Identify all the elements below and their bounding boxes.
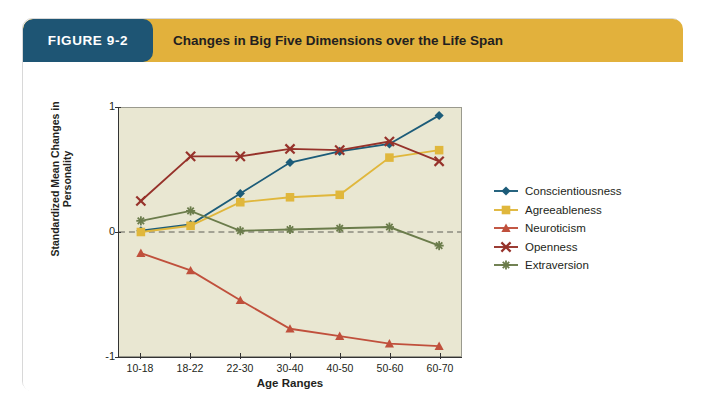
series-neuroticism (136, 249, 443, 350)
x-tick-mark (290, 353, 291, 359)
figure-number-tab: FIGURE 9-2 (23, 19, 153, 62)
data-point-marker-x (435, 157, 444, 166)
data-point-marker-diamond (435, 111, 444, 120)
data-point-marker-asterisk (236, 226, 245, 235)
legend-swatch-x-icon (493, 240, 519, 254)
chart-region: Standardized Mean Changes in Personality… (23, 62, 683, 392)
x-tick-label: 22-30 (214, 362, 266, 374)
x-tick-label: 30-40 (264, 362, 316, 374)
x-tick-mark (340, 353, 341, 359)
legend-item-neuroticism[interactable]: Neuroticism (493, 219, 673, 238)
data-point-marker-triangle (136, 249, 145, 257)
legend-label: Agreeableness (525, 204, 602, 216)
legend-item-conscientiousness[interactable]: Conscientiousness (493, 182, 673, 201)
series-conscientiousness (136, 111, 443, 235)
figure-number-label: FIGURE 9-2 (48, 33, 128, 48)
x-tick-mark (440, 353, 441, 359)
legend-item-agreeableness[interactable]: Agreeableness (493, 201, 673, 220)
y-tick-label: 1 (97, 100, 115, 112)
x-tick-mark (240, 353, 241, 359)
legend-item-openness[interactable]: Openness (493, 238, 673, 257)
data-point-marker-triangle (236, 296, 245, 304)
legend-swatch-diamond-icon (493, 184, 519, 198)
y-axis-ticks: 10-1 (91, 107, 115, 357)
data-point-marker-asterisk (136, 216, 145, 225)
figure-card: FIGURE 9-2 Changes in Big Five Dimension… (22, 18, 682, 391)
data-point-marker-x (136, 196, 145, 205)
y-axis-title: Standardized Mean Changes in Personality (49, 79, 73, 279)
x-tick-label: 60-70 (414, 362, 466, 374)
legend-label: Conscientiousness (525, 185, 622, 197)
legend-label: Extraversion (525, 259, 589, 271)
data-point-marker-asterisk (285, 225, 294, 234)
data-point-marker-diamond (236, 189, 245, 198)
data-point-marker-asterisk (335, 224, 344, 233)
x-tick-label: 10-18 (114, 362, 166, 374)
x-axis-title: Age Ranges (118, 377, 462, 389)
data-point-marker-asterisk (501, 261, 510, 270)
legend-swatch-square-icon (493, 203, 519, 217)
figure-title: Changes in Big Five Dimensions over the … (173, 19, 503, 62)
x-tick-mark (390, 353, 391, 359)
data-point-marker-asterisk (435, 241, 444, 250)
x-tick-label: 50-60 (364, 362, 416, 374)
data-point-marker-square (236, 198, 245, 207)
data-point-marker-asterisk (385, 222, 394, 231)
plot-area (118, 107, 462, 357)
data-point-marker-square (186, 222, 195, 231)
legend-swatch-triangle-icon (493, 221, 519, 235)
data-point-marker-square (502, 205, 511, 214)
chart-legend: ConscientiousnessAgreeablenessNeuroticis… (493, 182, 673, 275)
x-tick-label: 40-50 (314, 362, 366, 374)
data-point-marker-square (385, 153, 394, 162)
legend-label: Neuroticism (525, 222, 586, 234)
x-axis-ticks: 10-1818-2222-3030-4040-5050-6060-70 (118, 359, 462, 377)
y-axis-spine (118, 107, 119, 357)
x-tick-label: 18-22 (164, 362, 216, 374)
y-tick-label: 0 (97, 225, 115, 237)
series-extraversion (136, 206, 443, 250)
x-axis-spine (118, 357, 462, 358)
data-point-marker-diamond (501, 187, 510, 196)
data-point-marker-asterisk (186, 206, 195, 215)
data-point-marker-diamond (285, 158, 294, 167)
data-point-marker-square (286, 193, 295, 202)
figure-header-bar: FIGURE 9-2 Changes in Big Five Dimension… (23, 19, 683, 62)
data-point-marker-square (137, 228, 146, 237)
x-tick-mark (190, 353, 191, 359)
legend-item-extraversion[interactable]: Extraversion (493, 256, 673, 275)
x-tick-mark (140, 353, 141, 359)
chart-plot-svg (119, 108, 461, 356)
y-tick-label: -1 (97, 350, 115, 362)
legend-swatch-asterisk-icon (493, 258, 519, 272)
data-point-marker-square (435, 146, 444, 155)
data-point-marker-square (335, 191, 344, 200)
legend-label: Openness (525, 241, 577, 253)
